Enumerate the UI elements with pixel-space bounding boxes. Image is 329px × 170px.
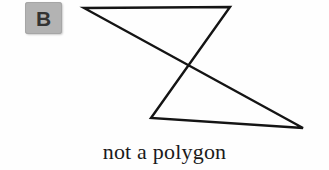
figure-page: B not a polygon bbox=[0, 0, 329, 170]
figure-caption: not a polygon bbox=[0, 139, 329, 165]
self-intersecting-quadrilateral-path bbox=[84, 7, 303, 128]
